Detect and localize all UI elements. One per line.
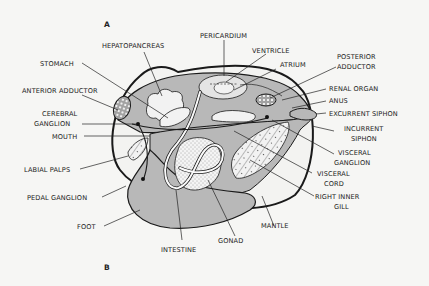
label-intestine: INTESTINE — [161, 246, 196, 254]
pedal-ganglion-dot — [141, 177, 145, 181]
label-hepatopancreas: HEPATOPANCREAS — [102, 42, 164, 50]
label-anus: ANUS — [329, 97, 348, 105]
label-incurrent-siphon-2: SIPHON — [351, 135, 377, 143]
label-ventricle: VENTRICLE — [252, 47, 290, 55]
label-gonad: GONAD — [218, 237, 243, 245]
label-excurrent-siphon: EXCURRENT SIPHON — [329, 110, 398, 118]
label-renal-organ: RENAL ORGAN — [329, 85, 378, 93]
label-visceral-ganglion-1: VISCERAL — [338, 149, 371, 157]
label-mantle: MANTLE — [261, 222, 289, 230]
visceral-ganglion-dot — [265, 115, 269, 119]
label-posterior-adductor-2: ADDUCTOR — [337, 63, 376, 71]
renal-organ-shape — [212, 111, 255, 123]
label-cerebral-ganglion-2: GANGLION — [34, 120, 70, 128]
label-foot: FOOT — [77, 223, 96, 231]
label-right-inner-gill-2: GILL — [334, 203, 349, 211]
label-visceral-cord-1: VISCERAL — [317, 170, 350, 178]
label-cerebral-ganglion-1: CEREBRAL — [42, 110, 78, 118]
label-right-inner-gill-1: RIGHT INNER — [315, 193, 360, 201]
label-incurrent-siphon-1: INCURRENT — [344, 125, 384, 133]
label-visceral-cord-2: CORD — [324, 180, 344, 188]
label-labial-palps: LABIAL PALPS — [24, 166, 70, 174]
label-anterior-adductor: ANTERIOR ADDUCTOR — [22, 87, 98, 95]
clam-anatomy-diagram: A B STOMACH HEPATOPANCREAS PERICARDIUM V… — [0, 0, 429, 286]
cerebral-ganglion-dot — [136, 122, 140, 126]
label-pericardium: PERICARDIUM — [200, 32, 247, 40]
label-stomach: STOMACH — [40, 60, 74, 68]
label-atrium: ATRIUM — [280, 61, 306, 69]
orientation-label-a: A — [104, 20, 110, 29]
label-posterior-adductor-1: POSTERIOR — [337, 53, 376, 61]
label-pedal-ganglion: PEDAL GANGLION — [27, 194, 87, 202]
label-mouth: MOUTH — [52, 133, 77, 141]
siphons — [290, 108, 317, 120]
posterior-adductor-organ — [256, 94, 276, 106]
orientation-label-b: B — [104, 263, 110, 272]
label-visceral-ganglion-2: GANGLION — [334, 159, 370, 167]
